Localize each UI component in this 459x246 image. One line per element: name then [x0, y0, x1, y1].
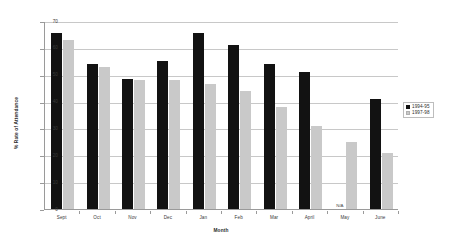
x-axis-title: Month [44, 228, 398, 233]
x-tick-label: Mar [254, 215, 294, 220]
bar[interactable] [169, 80, 180, 209]
x-tick-label: Jan [183, 215, 223, 220]
x-tick-label: Oct [77, 215, 117, 220]
y-tick-label: 20 [32, 154, 58, 159]
x-tick-mark [79, 211, 80, 214]
bar[interactable] [346, 142, 357, 209]
y-tick-label: 50 [32, 73, 58, 78]
legend-item[interactable]: 1994-95 [406, 105, 430, 110]
x-tick-mark [256, 211, 257, 214]
x-tick-mark [292, 211, 293, 214]
bar-missing[interactable]: N/A [334, 21, 345, 209]
x-tick-mark [221, 211, 222, 214]
y-tick-label: 40 [32, 100, 58, 105]
x-tick-mark [327, 211, 328, 214]
bar-group [187, 22, 222, 209]
y-tick-mark [40, 49, 44, 50]
x-tick-mark [150, 211, 151, 214]
y-tick-mark [40, 129, 44, 130]
bar[interactable] [99, 67, 110, 209]
bar[interactable] [122, 79, 133, 209]
bar[interactable] [193, 33, 204, 209]
y-tick-label: 10 [32, 181, 58, 186]
y-tick-label: 0 [32, 208, 58, 213]
legend-item[interactable]: 1997-98 [406, 111, 430, 116]
y-tick-mark [40, 76, 44, 77]
bar-chart: % Rate of Attendance N/A Month 1994-9519… [0, 0, 459, 246]
legend-label: 1994-95 [412, 105, 430, 110]
bar-group [80, 22, 115, 209]
bar[interactable] [264, 64, 275, 209]
bar-group [222, 22, 257, 209]
plot-area: N/A [44, 22, 398, 210]
y-tick-mark [40, 183, 44, 184]
na-label: N/A [336, 203, 343, 208]
bar-group [257, 22, 292, 209]
x-tick-label: June [360, 215, 400, 220]
y-tick-label: 30 [32, 127, 58, 132]
bar[interactable] [382, 153, 393, 209]
x-tick-mark [363, 211, 364, 214]
bar[interactable] [311, 126, 322, 209]
y-axis-title: % Rate of Attendance [14, 63, 19, 183]
bar-group: N/A [328, 22, 363, 209]
bar[interactable] [157, 61, 168, 209]
bar-group [151, 22, 186, 209]
y-tick-mark [40, 22, 44, 23]
legend-swatch-icon [406, 111, 410, 115]
bar-group [364, 22, 399, 209]
y-tick-label: 60 [32, 46, 58, 51]
legend-swatch-icon [406, 105, 410, 109]
bar[interactable] [228, 45, 239, 209]
bar[interactable] [205, 84, 216, 209]
x-tick-label: Sept [42, 215, 82, 220]
x-tick-mark [398, 211, 399, 214]
chart-legend: 1994-951997-98 [403, 102, 434, 118]
y-tick-mark [40, 156, 44, 157]
x-tick-label: April [290, 215, 330, 220]
bar[interactable] [87, 64, 98, 209]
bar[interactable] [299, 72, 310, 209]
x-tick-label: May [325, 215, 365, 220]
bar[interactable] [240, 91, 251, 209]
x-tick-label: Feb [219, 215, 259, 220]
bar-group [293, 22, 328, 209]
y-tick-mark [40, 103, 44, 104]
y-tick-mark [40, 210, 44, 211]
bar[interactable] [276, 107, 287, 209]
bar[interactable] [134, 80, 145, 209]
x-tick-label: Nov [113, 215, 153, 220]
bar-group [116, 22, 151, 209]
y-tick-label: 70 [32, 20, 58, 25]
legend-label: 1997-98 [412, 111, 430, 116]
x-tick-mark [186, 211, 187, 214]
bar[interactable] [63, 40, 74, 209]
x-tick-mark [115, 211, 116, 214]
x-tick-label: Dec [148, 215, 188, 220]
bar[interactable] [370, 99, 381, 209]
